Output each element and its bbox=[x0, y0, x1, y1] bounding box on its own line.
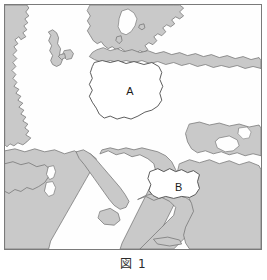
figure-container: A B 図 1 bbox=[0, 0, 267, 280]
region-label-a: A bbox=[126, 85, 134, 97]
europe-map: A B bbox=[5, 5, 261, 249]
map-frame: A B bbox=[4, 4, 262, 250]
region-label-b: B bbox=[175, 181, 182, 193]
country-highlight-bulgaria[interactable] bbox=[148, 169, 200, 199]
figure-caption: 図 1 bbox=[0, 254, 267, 271]
